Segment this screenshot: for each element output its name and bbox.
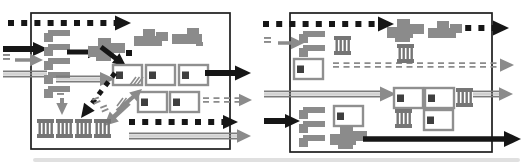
- box-with-square-unit: [394, 88, 423, 108]
- dash-dot: [126, 50, 132, 56]
- box-with-square-unit: [138, 92, 167, 112]
- two-compartment-pathway-figure: [0, 0, 523, 165]
- right-compartment: [263, 13, 521, 152]
- striped-gray-line-entry: [3, 71, 47, 76]
- left-compartment: [3, 13, 252, 149]
- box-with-square-unit: [425, 88, 454, 108]
- box-with-square-unit: [146, 65, 175, 85]
- scan-artifact: [33, 158, 520, 162]
- box-with-square-unit: [334, 106, 363, 126]
- pathway-diagram: [0, 0, 523, 165]
- box-with-square-unit: [113, 65, 142, 85]
- box-with-square-unit: [170, 92, 199, 112]
- equals-mark: [3, 54, 10, 60]
- box-with-square-unit: [294, 59, 323, 79]
- box-with-square-unit: [179, 65, 208, 85]
- equals-mark: [264, 37, 271, 43]
- box-with-square-unit: [424, 110, 453, 130]
